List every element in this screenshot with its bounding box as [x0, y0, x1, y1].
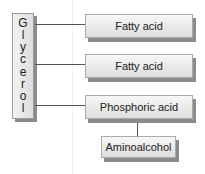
glycerol-letter: c: [20, 54, 26, 65]
fatty-acid-box-1: Fatty acid: [85, 14, 193, 38]
glycerol-label: G l y c e r o l: [13, 14, 33, 114]
connector-phosphoric-acid: [35, 105, 85, 106]
box-label: Fatty acid: [115, 60, 163, 72]
connector-aminoalcohol: [137, 122, 138, 136]
box-label: Phosphoric acid: [100, 101, 178, 113]
background-divider: [72, 0, 73, 174]
connector-fatty-acid-1: [35, 24, 85, 25]
aminoalcohol-box: Aminoalcohol: [101, 136, 176, 158]
box-label: Fatty acid: [115, 20, 163, 32]
box-label: Aminoalcohol: [105, 141, 171, 153]
glycerol-box: G l y c e r o l: [12, 13, 34, 119]
connector-fatty-acid-2: [35, 64, 85, 65]
glycerol-letter: l: [22, 103, 25, 114]
fatty-acid-box-2: Fatty acid: [85, 54, 193, 78]
glycerol-letter: e: [20, 67, 27, 78]
phosphoric-acid-box: Phosphoric acid: [85, 95, 193, 119]
